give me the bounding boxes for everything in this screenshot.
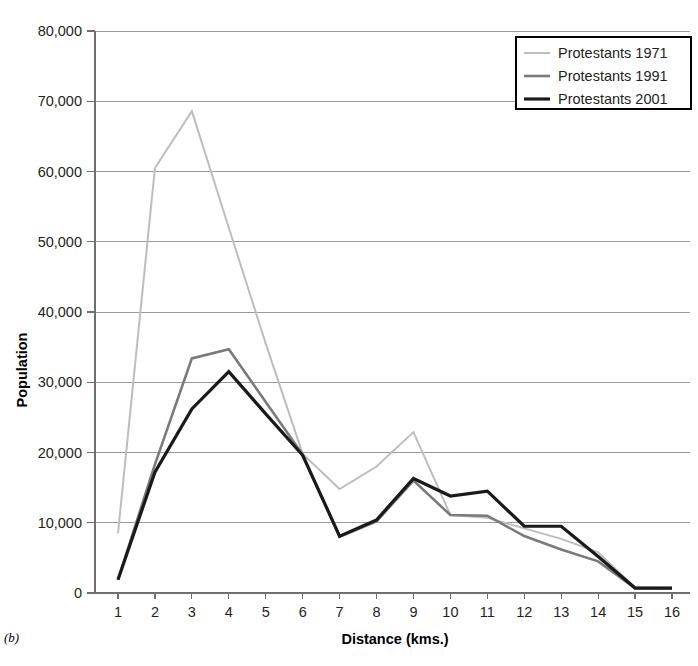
x-tick-label: 2 [151, 604, 159, 620]
legend-label: Protestants 1971 [558, 45, 668, 61]
panel-caption: (b) [4, 630, 19, 646]
y-tick-label: 0 [74, 585, 82, 601]
legend-label: Protestants 1991 [558, 68, 668, 84]
x-tick-label: 10 [442, 604, 458, 620]
x-tick-label: 11 [480, 604, 495, 620]
x-tick-label: 1 [114, 604, 122, 620]
legend: Protestants 1971Protestants 1991Protesta… [516, 37, 691, 109]
x-tick-label: 5 [262, 604, 270, 620]
y-tick-label: 40,000 [38, 304, 82, 320]
x-tick-label: 12 [516, 604, 532, 620]
y-axis-title: Population [14, 333, 30, 408]
x-tick-label: 13 [553, 604, 569, 620]
series-line-protestants-1971 [118, 111, 672, 588]
x-tick-label: 16 [664, 604, 680, 620]
y-tick-label: 10,000 [38, 515, 82, 531]
x-tick-label: 8 [372, 604, 380, 620]
x-axis-title: Distance (kms.) [341, 631, 448, 647]
x-tick-label: 3 [188, 604, 196, 620]
y-tick-label: 20,000 [38, 445, 82, 461]
legend-label: Protestants 2001 [558, 91, 668, 107]
x-tick-label: 4 [225, 604, 233, 620]
series-line-protestants-2001 [118, 372, 672, 588]
x-tick-label: 6 [299, 604, 307, 620]
y-tick-marks-group [87, 31, 95, 593]
x-tick-labels-group: 12345678910111213141516 [114, 604, 680, 620]
series-line-protestants-1991 [118, 349, 672, 588]
x-tick-label: 15 [627, 604, 643, 620]
y-tick-label: 70,000 [38, 93, 82, 109]
y-tick-labels-group: 010,00020,00030,00040,00050,00060,00070,… [38, 23, 82, 601]
y-tick-label: 30,000 [38, 374, 82, 390]
x-tick-marks-group [118, 593, 672, 599]
x-tick-label: 7 [336, 604, 344, 620]
data-series-group [118, 111, 672, 588]
x-tick-label: 14 [590, 604, 606, 620]
y-tick-label: 60,000 [38, 164, 82, 180]
chart-figure: 010,00020,00030,00040,00050,00060,00070,… [0, 0, 698, 666]
y-tick-label: 80,000 [38, 23, 82, 39]
line-chart: 010,00020,00030,00040,00050,00060,00070,… [0, 0, 698, 666]
y-tick-label: 50,000 [38, 234, 82, 250]
x-tick-label: 9 [409, 604, 417, 620]
